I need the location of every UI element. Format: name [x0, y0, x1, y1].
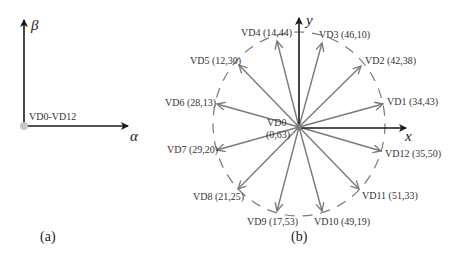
origin-label: VD0-VD12	[29, 111, 76, 122]
label-vd3: VD3 (46,10)	[319, 29, 370, 41]
label-vd7: VD7 (29,20)	[167, 144, 218, 156]
origin-dot	[20, 122, 28, 130]
panel-a: β α VD0-VD12 (a)	[20, 17, 139, 245]
label-vd6: VD6 (28,13)	[165, 97, 216, 109]
label-vd10: VD10 (49,19)	[314, 216, 370, 228]
label-vd9: VD9 (17,53)	[247, 216, 298, 228]
caption-a: (a)	[40, 229, 56, 245]
label-vd12: VD12 (35,50)	[385, 148, 441, 160]
label-vd4: VD4 (14,44)	[241, 27, 292, 39]
label-vd8: VD8 (21,25)	[193, 191, 244, 203]
label-vd5: VD5 (12,30)	[190, 55, 241, 67]
panel-b: y x VD0 (0,63) VD1 (34,43) VD2 (42,38) V…	[165, 12, 441, 245]
vector-vd6	[217, 104, 299, 127]
label-vd11: VD11 (51,33)	[362, 190, 418, 202]
center-label-line2: (0,63)	[266, 129, 290, 141]
beta-axis-label: β	[30, 17, 39, 33]
label-vd2: VD2 (42,38)	[365, 55, 416, 67]
vector-vd4	[277, 41, 299, 127]
caption-b: (b)	[291, 229, 308, 245]
center-dot	[296, 124, 302, 130]
label-vd1: VD1 (34,43)	[387, 96, 438, 108]
vector-vd3	[299, 43, 322, 127]
alpha-axis-label: α	[130, 128, 139, 144]
y-axis-label: y	[304, 12, 313, 28]
center-label-line1: VD0	[267, 117, 286, 128]
x-axis-label: x	[404, 128, 412, 144]
diagram-canvas: β α VD0-VD12 (a) y x VD0 (0,63)	[0, 0, 452, 257]
